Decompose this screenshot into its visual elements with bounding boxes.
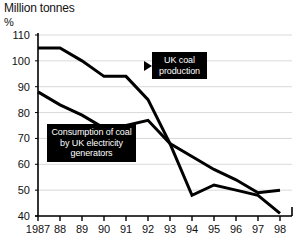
x-axis-tick-label: 92 bbox=[142, 223, 154, 235]
y-axis-tick-label: 100 bbox=[6, 55, 30, 67]
x-axis-tick-label: 96 bbox=[230, 223, 242, 235]
x-axis-tick-label: 89 bbox=[76, 223, 88, 235]
y-axis-tick-label: 110 bbox=[6, 29, 30, 41]
arrow-production bbox=[144, 61, 152, 71]
y-axis-tick-label: 90 bbox=[6, 81, 30, 93]
x-axis-tick-label: 94 bbox=[186, 223, 198, 235]
chart-plot bbox=[0, 0, 301, 241]
x-axis-tick-label: 1987 bbox=[26, 223, 50, 235]
y-axis-tick-label: 50 bbox=[6, 184, 30, 196]
chart-container: Million tonnes % 405060708090100110 1987… bbox=[0, 0, 301, 241]
y-axis-tick-label: 40 bbox=[6, 210, 30, 222]
x-axis-tick-label: 97 bbox=[252, 223, 264, 235]
x-axis-tick-label: 95 bbox=[208, 223, 220, 235]
callout-consumption-electricity-generators: Consumption of coal by UK electricity ge… bbox=[47, 124, 136, 162]
x-axis-tick-label: 93 bbox=[164, 223, 176, 235]
x-axis-tick-label: 90 bbox=[98, 223, 110, 235]
callout-uk-coal-production: UK coal production bbox=[152, 52, 207, 79]
x-axis-tick-label: 88 bbox=[54, 223, 66, 235]
x-axis-tick-label: 91 bbox=[120, 223, 132, 235]
y-axis-tick-label: 60 bbox=[6, 158, 30, 170]
y-axis-tick-label: 70 bbox=[6, 132, 30, 144]
y-axis-tick-label: 80 bbox=[6, 107, 30, 119]
x-axis-tick-label: 98 bbox=[274, 223, 286, 235]
